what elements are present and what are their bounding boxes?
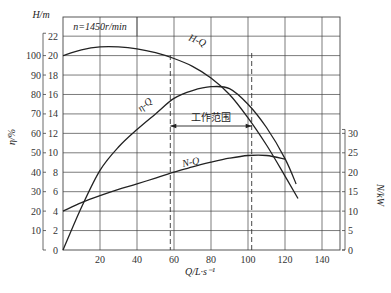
h-tick-label: 22 <box>48 31 58 42</box>
eta-tick-label: 20 <box>31 206 41 217</box>
eta-axis-label: η/% <box>6 129 17 145</box>
eta-tick-label: 50 <box>31 147 41 158</box>
etaq-curve <box>63 86 296 250</box>
h-tick-label: 8 <box>53 167 58 178</box>
nq-curve-label: N-Q <box>180 154 201 169</box>
n-tick-label: 30 <box>348 128 358 139</box>
x-tick-label: 40 <box>132 254 142 265</box>
n-tick-label: 0 <box>348 245 353 256</box>
h-tick-label: 2 <box>53 225 58 236</box>
x-tick-label: 60 <box>169 254 179 265</box>
x-tick-label: 100 <box>241 254 256 265</box>
eta-tick-label: 10 <box>31 225 41 236</box>
eta-tick-label: 60 <box>31 128 41 139</box>
n-tick-label: 20 <box>348 167 358 178</box>
h-tick-label: 16 <box>48 89 58 100</box>
curves <box>63 47 298 250</box>
n-tick-label: 10 <box>348 206 358 217</box>
plot-grid <box>63 17 340 250</box>
n-axis-label: N/kW <box>375 183 386 208</box>
working-range-label: 工作范围 <box>191 111 231 123</box>
hq-curve-label: H-Q <box>186 31 208 49</box>
h-tick-label: 12 <box>48 128 58 139</box>
h-tick-label: 6 <box>53 186 58 197</box>
eta-tick-label: 70 <box>31 108 41 119</box>
h-axis-label: H/m <box>31 9 49 20</box>
x-tick-label: 140 <box>315 254 330 265</box>
eta-tick-label: 90 <box>31 70 41 81</box>
x-axis-label: Q/L·s⁻¹ <box>185 266 215 277</box>
eta-tick-label: 80 <box>31 89 41 100</box>
n-tick-label: 5 <box>348 225 353 236</box>
x-tick-label: 120 <box>278 254 293 265</box>
h-tick-label: 18 <box>48 70 58 81</box>
eta-tick-label: 30 <box>31 186 41 197</box>
eta-tick-label: 40 <box>31 167 41 178</box>
eta-tick-label: 100 <box>26 50 41 61</box>
arrowhead-right-icon <box>246 124 252 128</box>
x-tick-label: 20 <box>95 254 105 265</box>
h-tick-label: 20 <box>48 50 58 61</box>
n-tick-label: 15 <box>348 186 358 197</box>
x-tick-label: 80 <box>206 254 216 265</box>
etaq-curve-label: η-Q <box>135 95 155 114</box>
h-tick-label: 14 <box>48 108 58 119</box>
h-tick-label: 0 <box>53 245 58 256</box>
speed-annotation: n=1450r/min <box>73 21 126 32</box>
arrowhead-left-icon <box>170 124 176 128</box>
h-tick-label: 10 <box>48 147 58 158</box>
h-tick-label: 4 <box>53 206 58 217</box>
n-tick-label: 25 <box>348 147 358 158</box>
pump-performance-chart: 0246810121416182022102030405060708090100… <box>0 0 391 293</box>
